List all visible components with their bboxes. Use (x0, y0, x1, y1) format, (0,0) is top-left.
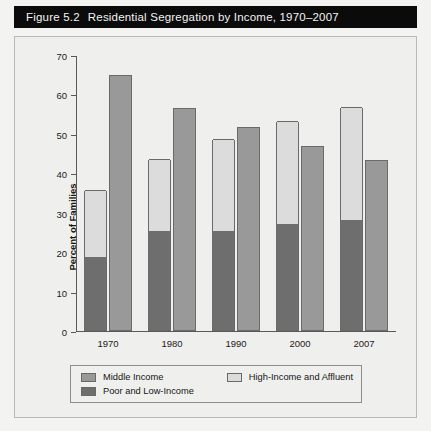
y-tick-label: 30 (56, 208, 67, 219)
figure-number: Figure 5.2 (26, 11, 80, 23)
stacked-bar-2000[interactable] (276, 122, 299, 331)
figure-title-text: Residential Segregation by Income, 1970–… (88, 11, 339, 23)
legend-label-high-income: High-Income and Affluent (249, 372, 353, 382)
chart-frame: Percent of Families 706050403020100 1970… (14, 36, 417, 418)
chart-legend: Middle Income High-Income and Affluent P… (70, 365, 362, 403)
bar-middle-income-1980[interactable] (173, 108, 196, 331)
x-tick-label: 1990 (204, 338, 268, 349)
bar-middle-income-1970[interactable] (109, 75, 132, 331)
legend-swatch-high-income (227, 373, 242, 382)
figure-title: Figure 5.2Residential Segregation by Inc… (14, 11, 339, 23)
y-tick-label: 70 (56, 51, 67, 62)
x-axis-line (76, 331, 396, 332)
bar-group: 1980 (140, 55, 204, 331)
bar-group: 1970 (76, 55, 140, 331)
bar-middle-income-1990[interactable] (237, 127, 260, 331)
y-tick-label: 60 (56, 90, 67, 101)
x-tick-label: 2007 (332, 338, 396, 349)
legend-item-poor-low-income: Poor and Low-Income (81, 386, 233, 396)
bar-segment-poor-low-income[interactable] (85, 257, 106, 330)
bar-middle-income-2007[interactable] (365, 160, 388, 332)
bar-group: 2000 (268, 55, 332, 331)
legend-swatch-poor-low-income (81, 387, 96, 396)
bar-segment-high-income-affluent[interactable] (277, 121, 298, 224)
y-tick (71, 332, 76, 333)
legend-row: Middle Income High-Income and Affluent (81, 372, 353, 382)
stacked-bar-2007[interactable] (340, 108, 363, 331)
y-tick-label: 0 (62, 327, 67, 338)
stacked-bar-1970[interactable] (84, 191, 107, 331)
stacked-bar-1990[interactable] (212, 140, 235, 331)
y-tick-label: 40 (56, 169, 67, 180)
legend-label-poor-low-income: Poor and Low-Income (103, 386, 194, 396)
legend-swatch-middle-income (81, 373, 96, 382)
bar-group: 1990 (204, 55, 268, 331)
y-tick-label: 50 (56, 129, 67, 140)
legend-label-middle-income: Middle Income (103, 372, 163, 382)
legend-item-middle-income: Middle Income (81, 372, 227, 382)
y-tick-label: 20 (56, 248, 67, 259)
stacked-bar-1980[interactable] (148, 160, 171, 332)
x-tick-label: 2000 (268, 338, 332, 349)
bar-group: 2007 (332, 55, 396, 331)
bar-segment-high-income-affluent[interactable] (341, 107, 362, 219)
legend-item-high-income: High-Income and Affluent (227, 372, 353, 382)
bar-segment-poor-low-income[interactable] (213, 231, 234, 330)
figure-container: Figure 5.2Residential Segregation by Inc… (0, 0, 431, 431)
y-tick-label: 10 (56, 287, 67, 298)
bar-segment-poor-low-income[interactable] (149, 231, 170, 330)
bar-segment-high-income-affluent[interactable] (85, 190, 106, 257)
bar-segment-high-income-affluent[interactable] (149, 159, 170, 232)
legend-row: Poor and Low-Income (81, 386, 353, 396)
x-tick-label: 1970 (76, 338, 140, 349)
figure-banner: Figure 5.2Residential Segregation by Inc… (14, 6, 417, 28)
plot-area: 706050403020100 19701980199020002007 (76, 56, 396, 332)
bar-middle-income-2000[interactable] (301, 146, 324, 331)
bar-segment-poor-low-income[interactable] (341, 220, 362, 330)
bar-segment-poor-low-income[interactable] (277, 224, 298, 330)
bar-segment-high-income-affluent[interactable] (213, 139, 234, 232)
x-tick-label: 1980 (140, 338, 204, 349)
